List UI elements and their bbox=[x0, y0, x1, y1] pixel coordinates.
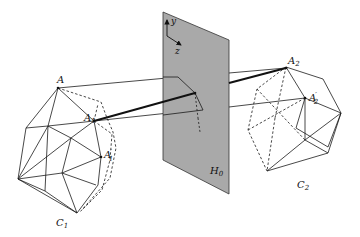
label-C2: C2 bbox=[297, 179, 310, 192]
label-A: A bbox=[56, 74, 64, 85]
axis-y-label: y bbox=[170, 16, 177, 26]
label-A1-prime: A′1 bbox=[103, 148, 113, 163]
label-A2: A2 bbox=[287, 55, 300, 68]
diagram-canvas: y z bbox=[0, 0, 360, 237]
label-C1: C1 bbox=[56, 217, 68, 230]
label-A2-prime: A′2 bbox=[308, 91, 319, 106]
axis-z-label: z bbox=[174, 46, 180, 56]
mesh-c2-dashed bbox=[248, 67, 305, 171]
label-A1: A1 bbox=[83, 112, 96, 125]
mesh-c2 bbox=[267, 67, 341, 171]
mesh-c1 bbox=[18, 88, 101, 213]
